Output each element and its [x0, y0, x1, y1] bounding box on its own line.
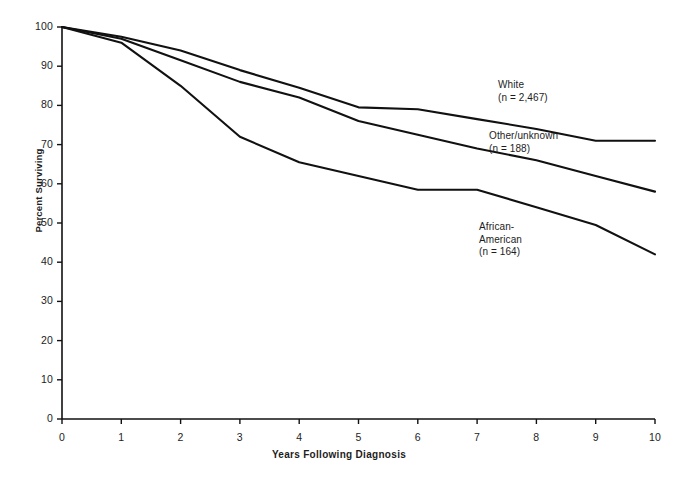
- x-tick-label: 10: [635, 431, 675, 443]
- y-tick-label: 70: [0, 138, 53, 150]
- y-tick-label: 60: [0, 177, 53, 189]
- x-tick-label: 5: [339, 431, 379, 443]
- series-annotation-white-line2: (n = 2,467): [498, 92, 548, 105]
- x-tick-label: 8: [516, 431, 556, 443]
- y-tick-label: 50: [0, 216, 53, 228]
- y-tick-label: 40: [0, 255, 53, 267]
- y-tick-label: 100: [0, 20, 53, 32]
- y-tick-label: 10: [0, 373, 53, 385]
- x-tick-label: 0: [42, 431, 82, 443]
- series-line-african-american: [62, 27, 655, 254]
- x-tick-label: 9: [576, 431, 616, 443]
- y-tick-label: 80: [0, 98, 53, 110]
- x-tick-label: 1: [101, 431, 141, 443]
- series-annotation-african-american: African- American (n = 164): [479, 221, 522, 259]
- series-annotation-white-line1: White: [498, 79, 548, 92]
- series-annotation-aa-line2: American: [479, 234, 522, 247]
- x-tick-label: 3: [220, 431, 260, 443]
- series-annotation-other-line1: Other/unknown: [489, 130, 558, 143]
- x-axis-title: Years Following Diagnosis: [0, 449, 678, 460]
- series-line-other-unknown: [62, 27, 655, 192]
- series-annotation-other-line2: (n = 188): [489, 143, 558, 156]
- series-line-white: [62, 27, 655, 141]
- series-annotation-aa-line1: African-: [479, 221, 522, 234]
- x-tick-label: 6: [398, 431, 438, 443]
- y-tick-label: 0: [0, 412, 53, 424]
- series-annotation-white: White (n = 2,467): [498, 79, 548, 104]
- y-tick-label: 90: [0, 59, 53, 71]
- x-tick-label: 2: [161, 431, 201, 443]
- x-tick-label: 7: [457, 431, 497, 443]
- y-tick-label: 20: [0, 334, 53, 346]
- x-tick-label: 4: [279, 431, 319, 443]
- series-annotation-other: Other/unknown (n = 188): [489, 130, 558, 155]
- plot-canvas: [0, 0, 678, 478]
- series-annotation-aa-line3: (n = 164): [479, 246, 522, 259]
- y-tick-label: 30: [0, 294, 53, 306]
- survival-curve-figure: Percent Surviving Years Following Diagno…: [0, 0, 678, 478]
